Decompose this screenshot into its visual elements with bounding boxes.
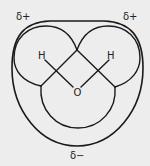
diagram-canvas: H H O δ+ δ+ δ−	[0, 0, 150, 166]
charge-top-left: δ+	[16, 11, 31, 22]
charge-top-right: δ+	[123, 11, 138, 22]
hydrogen-right-label: H	[107, 50, 115, 61]
water-molecule-diagram: H H O δ+ δ+ δ−	[0, 0, 150, 166]
bond-right-h-o	[81, 60, 109, 87]
charge-bottom: δ−	[70, 150, 85, 161]
bond-left-h-o	[45, 60, 73, 87]
hydrogen-left-label: H	[38, 50, 46, 61]
left-axis-line	[41, 50, 77, 86]
oxygen-label: O	[74, 87, 82, 98]
